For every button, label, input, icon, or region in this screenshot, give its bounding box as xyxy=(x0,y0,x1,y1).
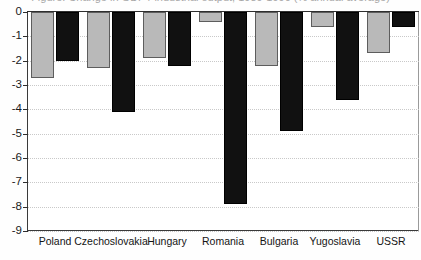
bar-ussr-series1 xyxy=(367,12,390,53)
bar-bulgaria-series1 xyxy=(255,12,278,66)
x-label-ussr: USSR xyxy=(343,236,421,247)
bar-bulgaria-series2 xyxy=(280,12,303,131)
y-tick-label: -2 xyxy=(0,55,22,67)
bar-poland-series2 xyxy=(56,12,79,61)
x-axis-labels: PolandCzechoslovakiaHungaryRomaniaBulgar… xyxy=(27,236,419,254)
bar-chart: Figure: Change in GDP / industrial outpu… xyxy=(0,0,421,260)
chart-title: Figure: Change in GDP / industrial outpu… xyxy=(0,0,421,3)
bar-romania-series1 xyxy=(199,12,222,22)
bars-layer xyxy=(27,12,419,231)
bar-hungary-series1 xyxy=(143,12,166,58)
y-tick-label: -6 xyxy=(0,152,22,164)
bar-hungary-series2 xyxy=(168,12,191,66)
bar-czechoslovakia-series1 xyxy=(87,12,110,68)
bar-yugoslavia-series1 xyxy=(311,12,334,27)
y-tick-label: -8 xyxy=(0,201,22,213)
bar-yugoslavia-series2 xyxy=(336,12,359,100)
bar-poland-series1 xyxy=(31,12,54,78)
y-tick-label: -9 xyxy=(0,225,22,237)
y-tick-label: 0 xyxy=(0,6,22,18)
y-tick-label: -3 xyxy=(0,79,22,91)
y-tick-label: -7 xyxy=(0,176,22,188)
y-tick-label: -4 xyxy=(0,103,22,115)
bar-romania-series2 xyxy=(224,12,247,204)
y-tick-label: -5 xyxy=(0,128,22,140)
y-tick-mark xyxy=(23,231,28,232)
gridline xyxy=(27,231,419,232)
y-tick-label: -1 xyxy=(0,30,22,42)
bar-ussr-series2 xyxy=(392,12,415,27)
bar-czechoslovakia-series2 xyxy=(112,12,135,112)
